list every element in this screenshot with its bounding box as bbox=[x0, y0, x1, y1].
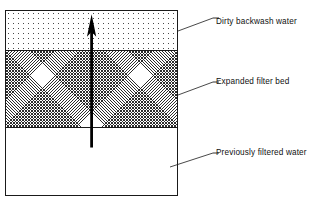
layer-dirty-backwash-water bbox=[6, 11, 177, 51]
label-previously-filtered-water: Previously filtered water bbox=[216, 148, 307, 157]
label-expanded-filter-bed: Expanded filter bed bbox=[216, 77, 289, 86]
layer-previously-filtered-water bbox=[6, 128, 177, 195]
layer-expanded-filter-bed bbox=[6, 51, 177, 128]
label-dirty-backwash-water: Dirty backwash water bbox=[216, 17, 297, 26]
filter-vessel bbox=[5, 10, 178, 196]
diagram-canvas: Dirty backwash water Expanded filter bed… bbox=[0, 0, 324, 204]
